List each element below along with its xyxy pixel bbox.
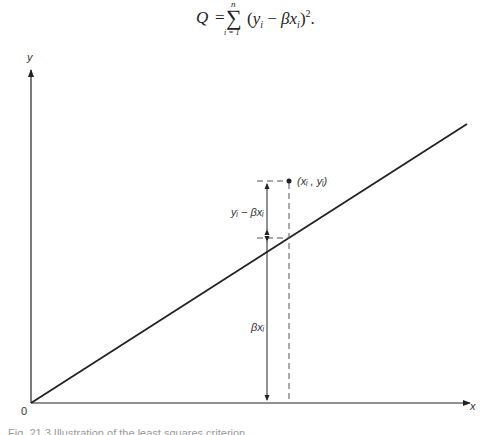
data-point (287, 179, 292, 184)
regression-diagram: (xᵢ , yᵢ) yᵢ − βxᵢ βxᵢ y x 0 (0, 0, 494, 435)
origin-label: 0 (21, 405, 27, 417)
fitted-label: βxᵢ (250, 321, 265, 333)
point-label: (xᵢ , yᵢ) (297, 175, 328, 187)
y-axis-label: y (26, 51, 34, 63)
residual-label: yᵢ − βxᵢ (230, 206, 264, 218)
x-axis-label: x (469, 400, 476, 412)
figure-caption: Fig. 21.3 Illustration of the least squa… (8, 428, 308, 435)
regression-line (31, 124, 467, 403)
